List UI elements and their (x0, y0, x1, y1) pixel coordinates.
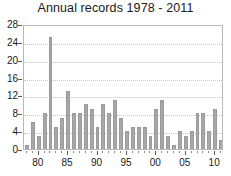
x-axis: 80859095000510 (23, 151, 223, 175)
chart-figure: Annual records 1978 - 2011 0481216202428… (0, 0, 231, 176)
x-minor-tick-mark (202, 151, 203, 153)
bar (172, 145, 176, 149)
x-minor-tick-mark (85, 151, 86, 153)
y-tick-mark (18, 96, 22, 97)
x-tick-label: 95 (120, 158, 131, 168)
bar (113, 100, 117, 149)
chart-title: Annual records 1978 - 2011 (0, 1, 231, 15)
x-minor-tick-mark (26, 151, 27, 153)
bar (49, 37, 53, 149)
bar (131, 127, 135, 149)
x-tick-label: 85 (62, 158, 73, 168)
bar (160, 100, 164, 149)
bar (119, 118, 123, 149)
x-minor-tick-mark (44, 151, 45, 153)
x-minor-tick-mark (191, 151, 192, 153)
x-minor-tick-mark (120, 151, 121, 153)
x-tick-label: 10 (209, 158, 220, 168)
bar (43, 113, 47, 149)
x-minor-tick-mark (73, 151, 74, 153)
bar (25, 145, 29, 149)
bar (125, 131, 129, 149)
y-axis: 0481216202428 (0, 25, 21, 150)
x-minor-tick-mark (161, 151, 162, 153)
bar (107, 113, 111, 149)
bar (166, 136, 170, 149)
bar (101, 104, 105, 149)
x-tick-mark (214, 151, 215, 155)
x-minor-tick-mark (220, 151, 221, 153)
x-tick-mark (126, 151, 127, 155)
bar (219, 140, 223, 149)
x-minor-tick-mark (108, 151, 109, 153)
y-tick-mark (18, 79, 22, 80)
bar (184, 136, 188, 149)
y-tick-mark (18, 43, 22, 44)
bar (60, 118, 64, 149)
x-minor-tick-mark (55, 151, 56, 153)
x-minor-tick-mark (79, 151, 80, 153)
x-minor-tick-mark (114, 151, 115, 153)
x-minor-tick-mark (49, 151, 50, 153)
bar (154, 109, 158, 149)
x-tick-mark (38, 151, 39, 155)
x-minor-tick-mark (132, 151, 133, 153)
bar (54, 127, 58, 149)
x-minor-tick-mark (91, 151, 92, 153)
bar-series (24, 26, 222, 149)
x-minor-tick-mark (149, 151, 150, 153)
bar (196, 113, 200, 149)
y-tick-mark (18, 132, 22, 133)
y-tick-label: 28 (7, 20, 18, 30)
bar (178, 131, 182, 149)
y-tick-label: 20 (7, 56, 18, 66)
x-minor-tick-mark (197, 151, 198, 153)
bar (137, 127, 141, 149)
y-tick-mark (18, 114, 22, 115)
x-tick-mark (155, 151, 156, 155)
x-tick-mark (185, 151, 186, 155)
x-minor-tick-mark (61, 151, 62, 153)
bar (143, 127, 147, 149)
bar (66, 91, 70, 149)
x-tick-label: 00 (150, 158, 161, 168)
x-tick-mark (97, 151, 98, 155)
bar (96, 127, 100, 149)
x-tick-label: 80 (32, 158, 43, 168)
y-tick-mark (18, 61, 22, 62)
x-minor-tick-mark (208, 151, 209, 153)
bar (213, 109, 217, 149)
bar (190, 131, 194, 149)
x-minor-tick-mark (167, 151, 168, 153)
bar (84, 104, 88, 149)
bar (72, 113, 76, 149)
y-tick-label: 16 (7, 74, 18, 84)
x-minor-tick-mark (173, 151, 174, 153)
y-tick-mark (18, 150, 22, 151)
x-tick-label: 05 (179, 158, 190, 168)
x-minor-tick-mark (138, 151, 139, 153)
bar (149, 136, 153, 149)
x-minor-tick-mark (32, 151, 33, 153)
x-tick-label: 90 (91, 158, 102, 168)
bar (201, 113, 205, 149)
bar (207, 131, 211, 149)
bar (37, 136, 41, 149)
x-minor-tick-mark (144, 151, 145, 153)
y-tick-mark (18, 25, 22, 26)
plot-area (23, 25, 223, 150)
bar (78, 113, 82, 149)
x-tick-mark (67, 151, 68, 155)
y-tick-label: 24 (7, 38, 18, 48)
bar (90, 109, 94, 149)
x-minor-tick-mark (179, 151, 180, 153)
x-minor-tick-mark (102, 151, 103, 153)
y-tick-label: 12 (7, 91, 18, 101)
bar (31, 122, 35, 149)
